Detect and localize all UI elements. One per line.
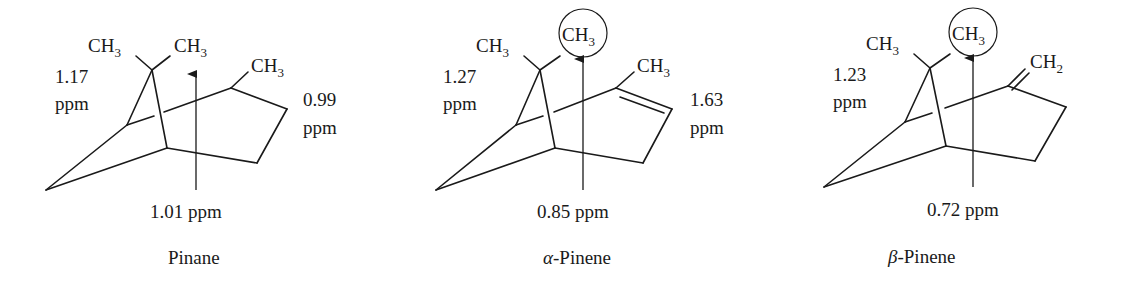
- molecule-pinane: CH3 CH3 CH3 1.17 ppm 0.99 ppm 1.01 ppm P…: [46, 35, 337, 268]
- beta-pinene-arrow-shift-label: 0.72 ppm: [927, 199, 999, 220]
- alpha-pinene-left-shift-unit: ppm: [443, 93, 477, 114]
- pinane-right-shift-value: 0.99: [303, 89, 336, 110]
- beta-pinene-left-shift-value: 1.23: [833, 64, 866, 85]
- pinane-arrow-shift-label: 1.01 ppm: [150, 201, 222, 222]
- alpha-pinene-right-shift-value: 1.63: [690, 89, 723, 110]
- alpha-pinene-methyl-right-label: CH3: [562, 24, 595, 49]
- pinane-name: Pinane: [168, 247, 220, 268]
- pinane-left-shift-unit: ppm: [55, 93, 89, 114]
- alpha-pinene-name: α-Pinene: [543, 247, 611, 268]
- alpha-pinene-right-shift-unit: ppm: [690, 117, 724, 138]
- pinane-ring-methyl-label: CH3: [251, 55, 284, 80]
- beta-pinene-methylene-label: CH2: [1030, 51, 1063, 76]
- beta-pinene-name: β-Pinene: [887, 246, 956, 267]
- alpha-pinene-ring-methyl-label: CH3: [637, 55, 670, 80]
- pinane-methyl-right-label: CH3: [174, 35, 207, 60]
- alpha-pinene-arrow-shift-label: 0.85 ppm: [537, 201, 609, 222]
- pinane-left-shift-value: 1.17: [55, 66, 88, 87]
- beta-pinene-methyl-right-label: CH3: [952, 23, 985, 48]
- pinene-nmr-figure: CH3 CH3 CH3 1.17 ppm 0.99 ppm 1.01 ppm P…: [0, 0, 1122, 286]
- alpha-pinene-left-shift-value: 1.27: [443, 66, 476, 87]
- alpha-pinene-methyl-left-label: CH3: [476, 35, 509, 60]
- pinane-methyl-left-label: CH3: [88, 35, 121, 60]
- pinane-right-shift-unit: ppm: [303, 117, 337, 138]
- beta-pinene-methyl-left-label: CH3: [866, 33, 899, 58]
- molecule-alpha-pinene: CH3 CH3 CH3 1.27 ppm 1.63 ppm 0.85 ppm α…: [436, 9, 724, 268]
- beta-pinene-left-shift-unit: ppm: [833, 91, 867, 112]
- molecule-beta-pinene: CH3 CH3 CH2 1.23 ppm 0.72 ppm β-Pinene: [824, 8, 1066, 267]
